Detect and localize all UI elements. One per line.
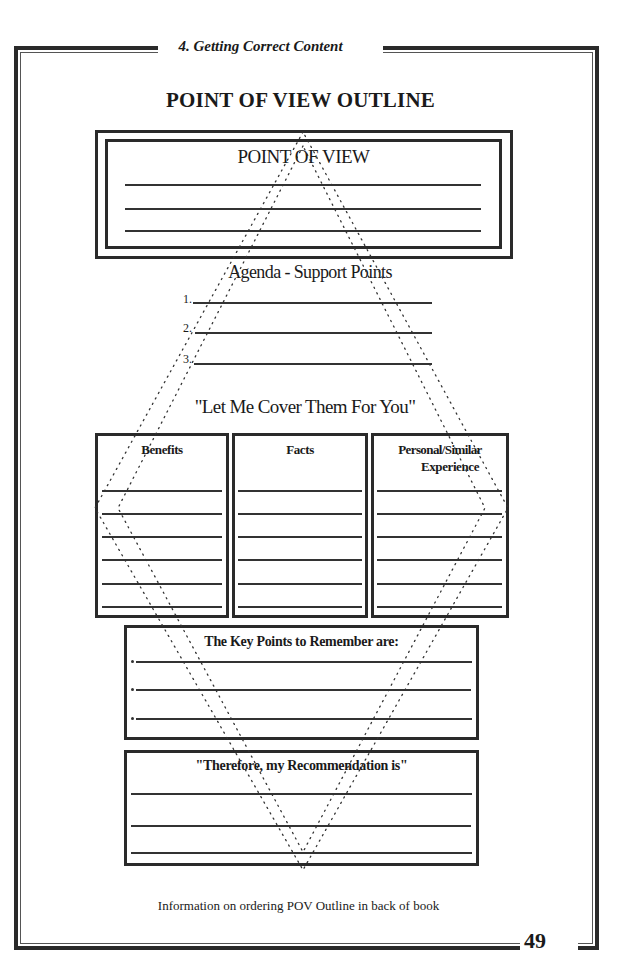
column-facts [232,433,368,618]
benefits-line-5[interactable] [102,583,222,585]
key-point-bullet-1 [131,660,134,663]
benefits-line-4[interactable] [102,559,222,561]
recommendation-line-3[interactable] [131,852,472,854]
key-points-heading: The Key Points to Remember are: [127,634,476,650]
personal-line-6[interactable] [377,606,502,608]
frame-right-thin [592,52,593,944]
agenda-number-3: 3. [183,352,192,367]
page-number: 49 [524,928,546,954]
key-point-bullet-2 [131,688,134,691]
transition-phrase: "Let Me Cover Them For You" [150,396,460,418]
facts-line-1[interactable] [238,490,362,492]
frame-bottom-left-thin [20,943,520,944]
key-point-line-1[interactable] [136,661,472,663]
pov-line-3[interactable] [125,230,481,232]
running-head: 4. Getting Correct Content [0,38,569,55]
key-point-bullet-3 [131,717,134,720]
personal-line-4[interactable] [377,559,502,561]
agenda-line-3[interactable] [194,363,432,365]
agenda-line-2[interactable] [195,332,432,334]
frame-bottom-left-thick [14,946,520,950]
facts-line-6[interactable] [238,606,362,608]
facts-line-5[interactable] [238,583,362,585]
footer-note: Information on ordering POV Outline in b… [0,898,607,914]
benefits-line-2[interactable] [102,513,222,515]
benefits-line-6[interactable] [102,606,222,608]
recommendation-line-2[interactable] [131,825,471,827]
column-benefits [95,433,229,618]
page-title: POINT OF VIEW OUTLINE [0,88,609,113]
key-point-line-3[interactable] [136,718,472,720]
benefits-line-3[interactable] [102,536,222,538]
key-point-line-2[interactable] [136,689,471,691]
frame-right-thick [595,46,599,950]
pov-line-1[interactable] [125,184,481,186]
personal-heading-line-2: Experience [374,459,506,475]
benefits-line-1[interactable] [102,490,222,492]
agenda-line-1[interactable] [193,302,432,304]
recommendation-line-1[interactable] [131,793,472,795]
agenda-number-2: 2. [183,321,192,336]
agenda-number-1: 1. [183,292,192,307]
facts-line-4[interactable] [238,559,362,561]
pov-line-2[interactable] [125,208,481,210]
personal-heading-line-1: Personal/Similar [374,442,506,458]
facts-heading: Facts [235,442,365,458]
point-of-view-heading: POINT OF VIEW [105,146,502,168]
facts-line-3[interactable] [238,536,362,538]
frame-bottom-right-thin [578,943,593,944]
personal-line-1[interactable] [377,490,502,492]
agenda-heading: Agenda - Support Points [180,262,440,283]
facts-line-2[interactable] [238,513,362,515]
frame-left-thin [20,52,21,944]
frame-bottom-right-thick [578,946,599,950]
personal-line-3[interactable] [377,536,502,538]
personal-line-5[interactable] [377,583,502,585]
recommendation-heading: "Therefore, my Recommendation is" [127,758,476,774]
benefits-heading: Benefits [98,442,226,458]
personal-line-2[interactable] [377,513,502,515]
frame-left-thick [14,46,18,950]
